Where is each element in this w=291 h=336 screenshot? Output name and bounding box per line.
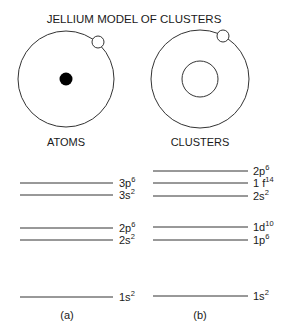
atom-model xyxy=(18,31,114,127)
panel-b-label: (b) xyxy=(193,309,206,321)
electron-circle-icon xyxy=(92,36,104,48)
orbital-label: 2s2 xyxy=(253,188,269,202)
atom-energy-levels: 3p63s22p62s21s2 xyxy=(20,175,135,303)
electron-circle-icon xyxy=(217,30,229,42)
panel-a-label: (a) xyxy=(60,309,73,321)
orbital-label: 1d10 xyxy=(253,219,274,233)
cluster-energy-levels: 2p61 f142s21d101p61s2 xyxy=(153,163,274,302)
atoms-caption: ATOMS xyxy=(47,136,85,148)
orbital-label: 1s2 xyxy=(119,289,135,303)
orbital-label: 1s2 xyxy=(253,288,269,302)
orbital-label: 3s2 xyxy=(119,187,135,201)
nucleus-dot-icon xyxy=(60,73,73,86)
jellium-diagram: JELLIUM MODEL OF CLUSTERS ATOMS CLUSTERS… xyxy=(0,0,291,336)
orbital-label: 2s2 xyxy=(119,232,135,246)
jellium-core-circle xyxy=(182,61,218,97)
diagram-title: JELLIUM MODEL OF CLUSTERS xyxy=(47,13,222,25)
orbital-label: 1 f14 xyxy=(253,175,274,189)
orbital-label: 1p6 xyxy=(253,232,269,246)
clusters-caption: CLUSTERS xyxy=(171,136,230,148)
cluster-model xyxy=(151,30,249,128)
cluster-shell-circle xyxy=(151,30,249,128)
